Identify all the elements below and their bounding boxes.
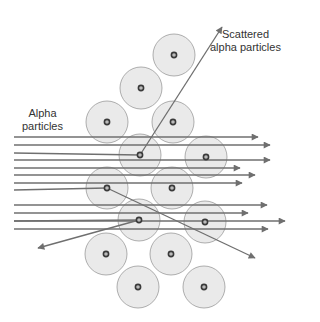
nucleus: [168, 251, 173, 256]
nucleus: [171, 52, 176, 57]
nucleus: [104, 119, 109, 124]
nucleus: [170, 119, 175, 124]
incoming-label: Alpha particles: [22, 107, 63, 133]
nucleus: [201, 284, 206, 289]
nucleus: [104, 185, 109, 190]
scattered-label-line2: alpha particles: [210, 41, 281, 54]
scattered-label: Scattered alpha particles: [210, 28, 281, 54]
nucleus: [138, 85, 143, 90]
nucleus: [136, 217, 141, 222]
incoming-label-line2: particles: [22, 120, 63, 133]
nucleus: [169, 185, 174, 190]
nucleus: [135, 284, 140, 289]
nucleus: [203, 154, 208, 159]
nucleus: [103, 251, 108, 256]
nucleus: [202, 219, 207, 224]
nucleus: [137, 152, 142, 157]
scattered-label-line1: Scattered: [210, 28, 281, 41]
incoming-label-line1: Alpha: [22, 107, 63, 120]
